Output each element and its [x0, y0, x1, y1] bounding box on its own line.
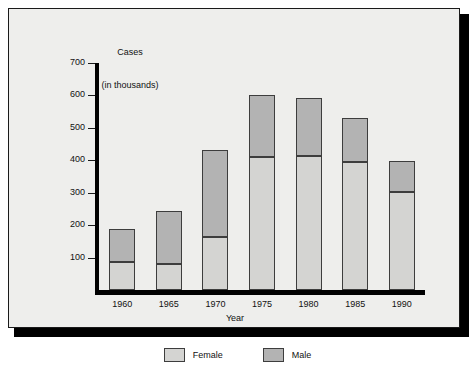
- x-tick-label: 1960: [97, 299, 147, 309]
- y-tick-mark: [88, 258, 95, 259]
- legend-item[interactable]: Male: [263, 348, 312, 362]
- chart-area: Cases (in thousands) 7006005004003002001…: [9, 9, 461, 329]
- x-tick-label: 1965: [144, 299, 194, 309]
- y-tick-mark: [88, 225, 95, 226]
- legend-swatch-female: [164, 348, 185, 362]
- y-tick-label: 200: [57, 220, 85, 229]
- bar-group[interactable]: [389, 63, 415, 290]
- bar-segment-female[interactable]: [249, 157, 275, 290]
- y-tick-mark: [88, 160, 95, 161]
- bar-group[interactable]: [296, 63, 322, 290]
- y-tick-mark: [88, 128, 95, 129]
- legend-label-female: Female: [193, 350, 223, 360]
- x-tick-label: 1980: [284, 299, 334, 309]
- x-tick-label: 1970: [190, 299, 240, 309]
- bar-segment-female[interactable]: [109, 262, 135, 290]
- bar-segment-male[interactable]: [389, 161, 415, 191]
- y-tick-mark: [88, 95, 95, 96]
- bar-segment-male[interactable]: [109, 229, 135, 262]
- bar-segment-male[interactable]: [249, 95, 275, 157]
- x-tick-label: 1975: [237, 299, 287, 309]
- legend-label-male: Male: [292, 350, 312, 360]
- chart-panel: Cases (in thousands) 7006005004003002001…: [8, 8, 460, 328]
- x-axis-title: Year: [9, 313, 461, 323]
- bar-segment-female[interactable]: [389, 192, 415, 290]
- bar-segment-male[interactable]: [202, 150, 228, 237]
- bar-segment-male[interactable]: [156, 211, 182, 265]
- x-tick-label: 1990: [377, 299, 427, 309]
- y-tick-mark: [88, 63, 95, 64]
- bar-segment-male[interactable]: [342, 118, 368, 162]
- plot-region: [99, 63, 425, 290]
- bar-segment-female[interactable]: [342, 162, 368, 290]
- bar-group[interactable]: [342, 63, 368, 290]
- bar-segment-female[interactable]: [296, 156, 322, 290]
- bar-group[interactable]: [249, 63, 275, 290]
- x-tick-label: 1985: [330, 299, 380, 309]
- chart-legend: FemaleMale: [0, 348, 475, 362]
- y-tick-label: 100: [57, 253, 85, 262]
- y-tick-label: 500: [57, 123, 85, 132]
- bar-group[interactable]: [156, 63, 182, 290]
- bar-group[interactable]: [202, 63, 228, 290]
- y-tick-label: 600: [57, 90, 85, 99]
- y-tick-mark: [88, 193, 95, 194]
- bar-segment-male[interactable]: [296, 98, 322, 156]
- y-tick-label: 300: [57, 188, 85, 197]
- legend-item[interactable]: Female: [164, 348, 223, 362]
- legend-swatch-male: [263, 348, 284, 362]
- bar-segment-female[interactable]: [202, 237, 228, 291]
- bar-group[interactable]: [109, 63, 135, 290]
- x-axis-spine: [95, 290, 425, 295]
- y-tick-label: 400: [57, 155, 85, 164]
- bar-segment-female[interactable]: [156, 264, 182, 290]
- y-tick-label: 700: [57, 58, 85, 67]
- chart-screenshot: Cases (in thousands) 7006005004003002001…: [0, 0, 475, 379]
